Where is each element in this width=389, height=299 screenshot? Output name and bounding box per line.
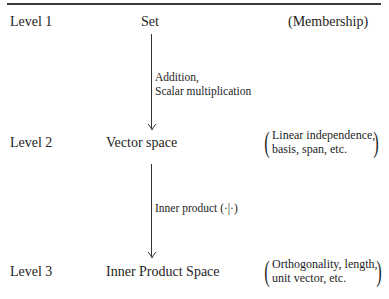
level-1-label: Level 1	[10, 14, 52, 30]
transition-2-label: Inner product (·|·)	[155, 201, 238, 215]
level-2-structure-vector-space: Vector space	[106, 135, 177, 151]
level-3-property-line-1: Orthogonality, length,	[272, 257, 378, 271]
level-2-label: Level 2	[10, 135, 52, 151]
level-3-property-line-2: unit vector, etc.	[272, 271, 378, 285]
level-2-property-line-1: Linear independence,	[272, 128, 375, 142]
level-3-property-group: ( Orthogonality, length, unit vector, et…	[262, 256, 384, 286]
transition-1-label-line-2: Scalar multiplication	[155, 84, 251, 98]
close-paren: )	[374, 127, 380, 157]
level-2-property-line-2: basis, span, etc.	[272, 142, 375, 156]
level-3-label: Level 3	[10, 264, 52, 280]
level-2-property-group: ( Linear independence, basis, span, etc.…	[262, 127, 381, 157]
level-1-property-membership: (Membership)	[288, 14, 368, 30]
level-3-property-text: Orthogonality, length, unit vector, etc.	[272, 257, 378, 285]
arrow-1-shaft	[151, 34, 152, 128]
open-paren: (	[264, 127, 270, 157]
level-3-structure-inner-product-space: Inner Product Space	[106, 264, 220, 280]
level-1-structure-set: Set	[141, 14, 159, 30]
close-paren: )	[376, 256, 382, 286]
open-paren: (	[264, 256, 270, 286]
top-rule	[7, 3, 381, 5]
level-2-property-text: Linear independence, basis, span, etc.	[272, 128, 375, 156]
transition-1-label-line-1: Addition,	[155, 70, 199, 84]
arrow-2-shaft	[151, 164, 152, 256]
